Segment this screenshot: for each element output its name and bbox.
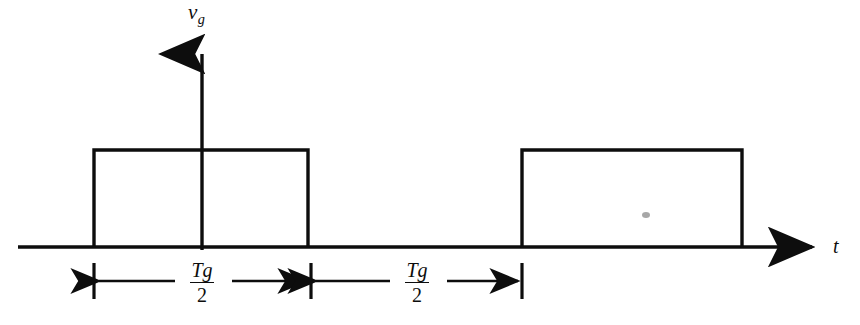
- waveform-figure: vg t Tg 2 Tg 2: [0, 0, 860, 325]
- vertical-axis-label-subscript: g: [198, 11, 205, 27]
- pulse-2-outline: [522, 150, 742, 248]
- dimension-off-time-numerator: Tg: [394, 260, 440, 281]
- vertical-axis-label: vg: [188, 2, 205, 26]
- horizontal-axis-label-main: t: [833, 235, 839, 257]
- dimension-on-time-fraction-bar: [190, 282, 214, 283]
- dimension-off-time-denominator: 2: [394, 285, 440, 305]
- dimension-off-time-numerator-subscript: g: [418, 259, 428, 281]
- dimension-on-time-numerator-subscript: g: [203, 259, 213, 281]
- dimension-off-time-numerator-main: T: [406, 259, 417, 281]
- dimension-off-time-label: Tg 2: [394, 260, 440, 305]
- dimension-off-time-fraction-bar: [405, 282, 429, 283]
- horizontal-axis-label: t: [833, 236, 839, 256]
- dimension-on-time-label: Tg 2: [179, 260, 225, 305]
- dimension-on-time-numerator: Tg: [179, 260, 225, 281]
- scan-speck: [642, 212, 650, 218]
- pulse-2: [522, 150, 742, 248]
- dimension-on-time-numerator-main: T: [191, 259, 202, 281]
- vertical-axis-label-main: v: [188, 0, 197, 24]
- dimension-on-time-denominator: 2: [179, 285, 225, 305]
